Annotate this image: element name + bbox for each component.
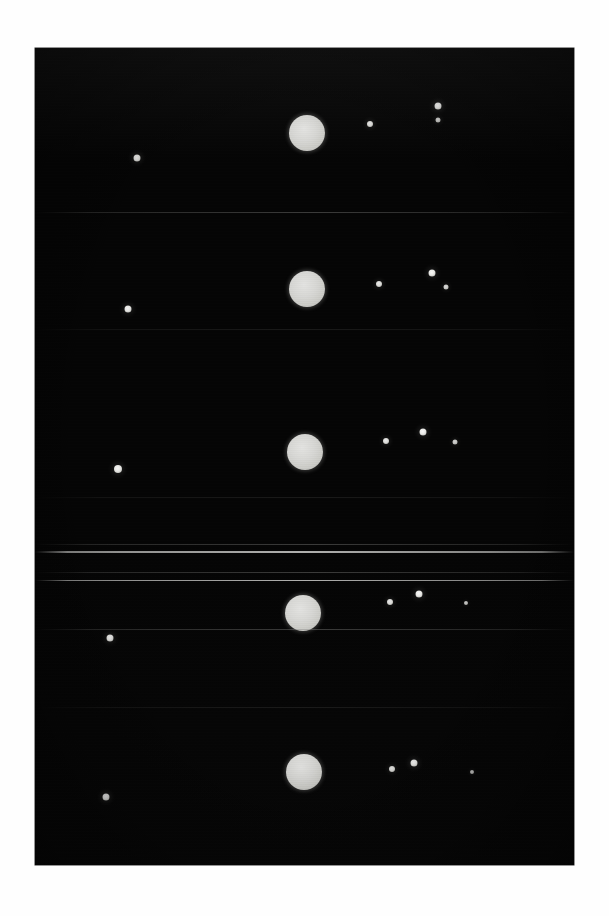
photographic-plate (35, 48, 574, 865)
page-root (0, 0, 609, 916)
galilean-moon (470, 770, 474, 774)
galilean-moon (411, 760, 418, 767)
jupiter-disk (286, 754, 322, 790)
galilean-moon (389, 766, 395, 772)
galilean-moon (103, 794, 110, 801)
exposure-band (35, 48, 574, 865)
